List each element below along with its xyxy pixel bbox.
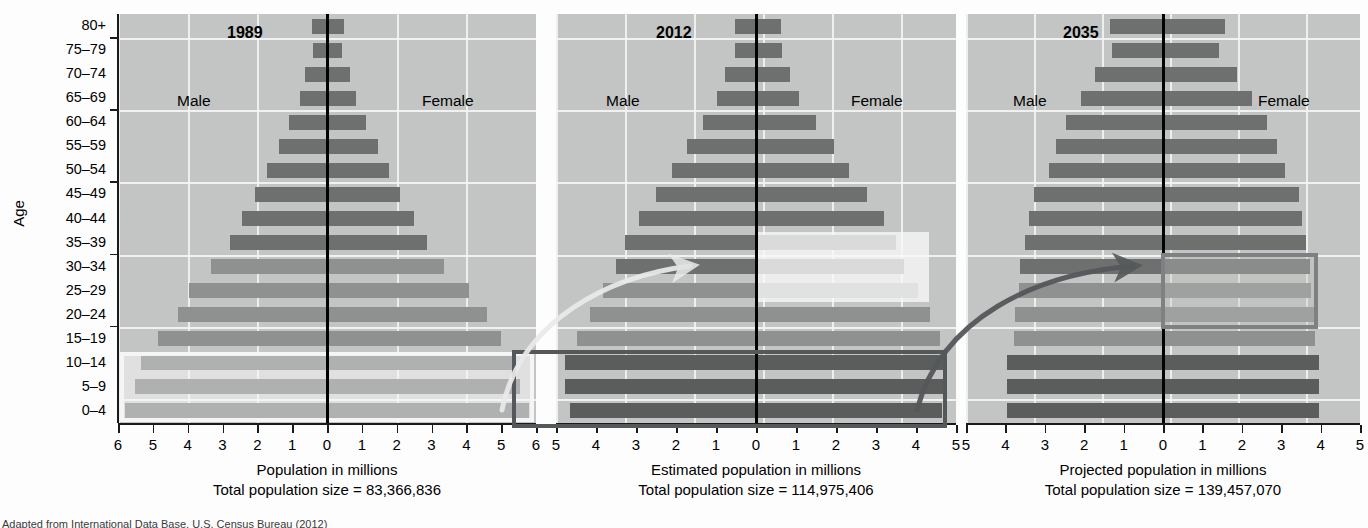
male-label: Male [177,92,211,110]
panel-title: 1989 [227,24,263,42]
x-axis-tick-label: 5 [1349,436,1368,453]
x-axis-tick [1005,425,1007,433]
x-axis-tick-label: 5 [490,436,512,453]
bar-female [327,19,344,34]
x-axis-tick [1360,425,1362,433]
x-axis-tick [466,425,468,433]
bar-female [756,19,781,34]
cohort-highlight-2012-adult [758,232,929,302]
age-label: 35–39 [26,235,106,250]
age-label: 70–74 [26,66,106,81]
cohort-highlight-2012-children [512,350,947,428]
bar-female [327,331,501,346]
bar-female [327,211,414,226]
bar-male [242,211,327,226]
bar-male [1112,43,1163,58]
age-label: 25–29 [26,283,106,298]
bar-female [327,43,342,58]
bar-female [327,163,389,178]
bar-male [725,67,756,82]
age-label: 50–54 [26,162,106,177]
x-axis-tick-label: 1 [1113,436,1135,453]
bar-male [1049,163,1163,178]
x-axis-tick-label: 3 [1270,436,1292,453]
female-label: Female [1258,92,1310,110]
plot-area [556,14,956,423]
bar-male [1015,307,1163,322]
bar-male [1081,91,1163,106]
bar-female [1163,235,1306,250]
x-axis-tick [223,425,225,433]
bar-male [1014,331,1163,346]
x-axis-tick [966,425,968,433]
x-axis-tick [1202,425,1204,433]
panel-title: 2012 [656,24,692,42]
source-note: Adapted from International Data Base, U.… [2,518,327,528]
x-axis-tick [327,425,329,433]
bar-male [603,283,756,298]
bar-female [327,235,427,250]
age-label: 0–4 [26,403,106,418]
female-label: Female [422,92,474,110]
age-label: 20–24 [26,307,106,322]
y-axis-spine [117,14,119,423]
x-axis-tick [1281,425,1283,433]
x-axis-tick-label: 2 [246,436,268,453]
bar-female [327,259,444,274]
x-axis-tick-label: 2 [1073,436,1095,453]
bar-female [327,283,469,298]
bar-female [327,139,378,154]
panel-1989: 1989MaleFemale6543210123456Population in… [118,14,536,423]
bar-female [1163,115,1267,130]
bar-male [639,211,756,226]
x-axis-tick-label: 4 [585,436,607,453]
bar-male [1007,355,1163,370]
x-axis-tick [118,425,120,433]
x-axis-tick-label: 6 [525,436,547,453]
x-axis-tick-label: 3 [421,436,443,453]
x-axis-tick-label: 0 [1152,436,1174,453]
bar-male [1066,115,1163,130]
bar-male [1007,379,1163,394]
bar-male [178,307,327,322]
bar-male [625,235,756,250]
x-axis-tick-label: 4 [905,436,927,453]
bar-male [717,91,756,106]
bar-male [1019,283,1163,298]
bar-male [211,259,327,274]
x-axis-tick-label: 5 [545,436,567,453]
age-label: 55–59 [26,138,106,153]
bar-male [590,307,756,322]
population-pyramid-figure: Age 80+75–7970–7465–6960–6455–5950–5445–… [0,0,1368,528]
x-axis-tick-label: 6 [107,436,129,453]
bar-male [1110,19,1163,34]
bar-male [577,331,756,346]
bar-female [1163,19,1225,34]
bar-male [305,67,327,82]
age-label: 45–49 [26,186,106,201]
bar-female [327,67,350,82]
plot-area [966,14,1360,423]
x-axis-tick-label: 4 [1310,436,1332,453]
bar-male [1095,67,1163,82]
bar-male [1029,211,1163,226]
bar-female [1163,403,1319,418]
age-label: 15–19 [26,331,106,346]
center-axis-line [326,14,329,423]
x-axis-tick [501,425,503,433]
male-label: Male [606,92,640,110]
bar-male [1025,235,1163,250]
x-axis-tick [1084,425,1086,433]
bar-female [1163,331,1315,346]
x-axis-tick-label: 4 [994,436,1016,453]
panel-2012: 2012MaleFemale54321012345Estimated popul… [556,14,956,423]
bar-male [656,187,756,202]
bar-male [616,259,756,274]
bar-male [1007,403,1163,418]
bar-female [1163,43,1219,58]
bar-male [255,187,327,202]
bar-female [756,187,867,202]
x-axis-tick-label: 3 [1034,436,1056,453]
x-axis-tick-label: 0 [745,436,767,453]
x-axis-tick-label: 1 [351,436,373,453]
